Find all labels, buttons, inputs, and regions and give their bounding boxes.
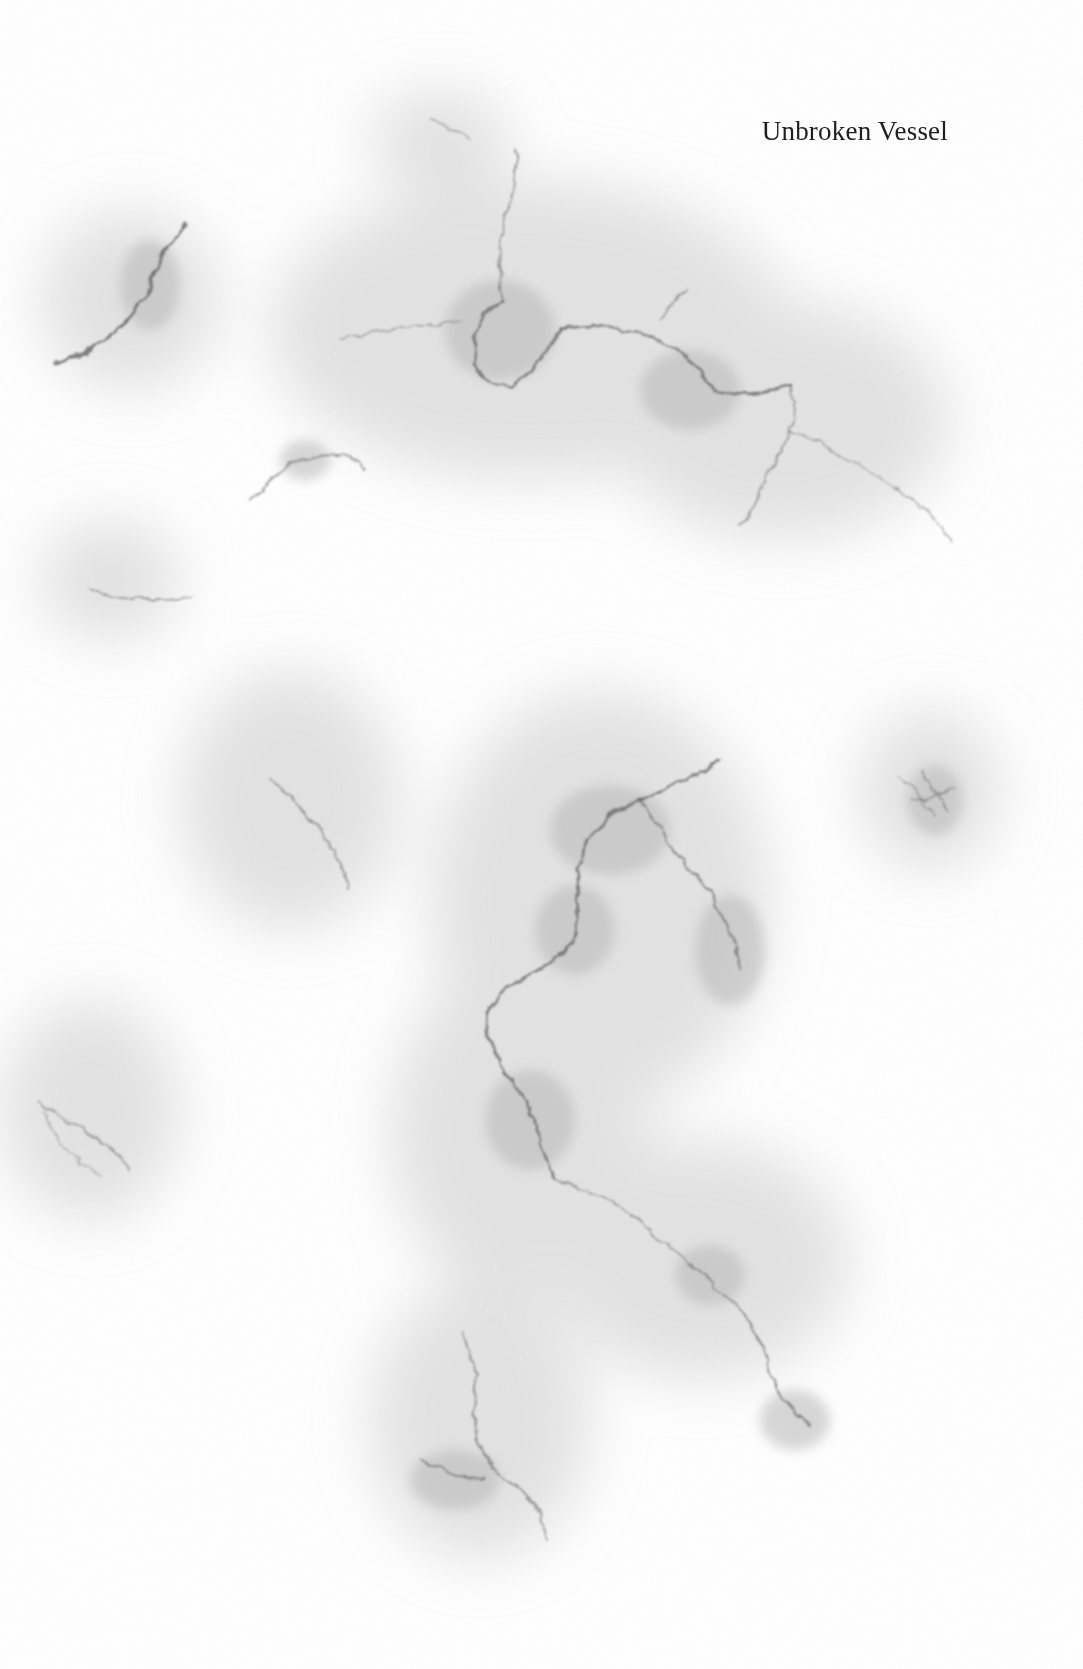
marble-texture bbox=[0, 0, 1083, 1669]
book-title: Unbroken Vessel bbox=[762, 116, 948, 147]
book-page: Unbroken Vessel bbox=[0, 0, 1083, 1669]
